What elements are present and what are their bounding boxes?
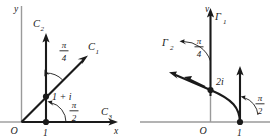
curve-c2-label: C 2 xyxy=(33,18,45,33)
left-point-one-dot xyxy=(43,119,49,125)
left-point-one-label: 1 xyxy=(43,128,48,138)
svg-text:2: 2 xyxy=(170,44,174,52)
left-point-one-plus-i-label: 1 + i xyxy=(52,91,72,102)
curve-c1-arrowhead xyxy=(78,56,88,64)
svg-text:2: 2 xyxy=(72,113,77,123)
right-point-two-i-dot xyxy=(207,87,213,93)
right-angle-pi-over-4-label: π 4 xyxy=(195,36,204,59)
right-angle-pi-over-2-label: π 2 xyxy=(256,93,265,116)
svg-text:4: 4 xyxy=(197,49,202,59)
right-origin-label: O xyxy=(200,125,207,136)
complex-plane-figure: y O x C 3 C 2 C 1 1 xyxy=(0,0,270,140)
svg-text:π: π xyxy=(258,93,263,103)
right-point-one-label: 1 xyxy=(237,128,242,138)
left-y-axis-label: y xyxy=(13,4,19,14)
curve-c1-label: C 1 xyxy=(88,41,99,56)
svg-text:4: 4 xyxy=(62,53,67,63)
left-origin-label: O xyxy=(11,125,18,136)
svg-text:Γ: Γ xyxy=(161,37,169,48)
right-point-two-i-label: 2i xyxy=(216,76,224,87)
curve-gamma1-label: Γ 1 xyxy=(214,11,227,26)
svg-text:2: 2 xyxy=(258,106,263,116)
svg-text:1: 1 xyxy=(223,18,227,26)
svg-text:Γ: Γ xyxy=(214,11,222,22)
svg-text:2: 2 xyxy=(41,25,45,33)
curve-gamma2-line xyxy=(175,75,240,122)
svg-text:π: π xyxy=(72,100,77,110)
right-panel: O v Γ 1 Γ 2 2i 1 xyxy=(140,4,270,138)
left-panel: y O x C 3 C 2 C 1 1 xyxy=(0,4,119,138)
svg-text:1: 1 xyxy=(96,48,100,56)
left-point-one-plus-i-dot xyxy=(43,93,49,99)
curve-gamma2-tangent-line xyxy=(190,80,205,87)
left-angle-pi-over-4-label: π 4 xyxy=(60,40,69,63)
svg-text:π: π xyxy=(62,40,67,50)
curve-c3-label: C 3 xyxy=(101,106,113,121)
svg-text:π: π xyxy=(197,36,202,46)
curve-gamma2-label: Γ 2 xyxy=(161,37,174,52)
svg-text:3: 3 xyxy=(108,113,113,121)
left-x-axis-label: x xyxy=(113,126,119,136)
left-angle-pi-over-2-label: π 2 xyxy=(70,100,79,123)
